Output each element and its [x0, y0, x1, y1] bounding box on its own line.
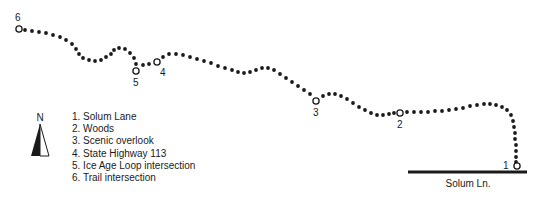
trail-dot [195, 57, 199, 61]
trail-dot [345, 97, 349, 101]
trail-marker-2[interactable] [397, 110, 403, 116]
trail-marker-3[interactable] [313, 98, 319, 104]
trail-dot [308, 92, 312, 96]
trail-dot [296, 84, 300, 88]
legend-item: 1. Solum Lane [72, 111, 195, 123]
trail-dot [44, 31, 48, 35]
trail-dot [387, 112, 391, 116]
trail-dot [512, 125, 516, 129]
trail-dot [369, 111, 373, 115]
trail-marker-6[interactable] [16, 26, 22, 32]
trail-dot [223, 66, 227, 70]
trail-dot [242, 71, 246, 75]
trail-dot [134, 62, 138, 66]
trail-dot [202, 59, 206, 63]
trail-dot [500, 105, 504, 109]
trail-dot [381, 113, 385, 117]
trail-dot [514, 149, 518, 153]
trail-dot [433, 109, 437, 113]
marker-label-3: 3 [313, 108, 319, 118]
trail-dot [70, 42, 74, 46]
marker-label-6: 6 [15, 13, 21, 23]
legend-item: 2. Woods [72, 123, 195, 135]
trail-dot [426, 110, 430, 114]
trail-dot [167, 52, 171, 56]
trail-dot [302, 88, 306, 92]
trail-dot [513, 137, 517, 141]
trail-dot [339, 94, 343, 98]
trail-dot [333, 92, 337, 96]
trail-dot [81, 56, 85, 60]
trail-dot [74, 47, 78, 51]
trail-dot [375, 113, 379, 117]
trail-dot [254, 68, 258, 72]
trail-dot [128, 51, 132, 55]
trail-dot [23, 28, 27, 32]
trail-dot [99, 58, 103, 62]
trail-dot [112, 48, 116, 52]
trail-dot [327, 92, 331, 96]
trail-dot [461, 106, 465, 110]
trail-dot [509, 113, 513, 117]
trail-dot [454, 107, 458, 111]
trail-dot [272, 68, 276, 72]
trail-dot [161, 55, 165, 59]
map-legend: 1. Solum Lane 2. Woods 3. Scenic overloo… [72, 111, 195, 184]
trail-dot [260, 66, 264, 70]
trail-marker-1[interactable] [514, 163, 520, 169]
trail-dot [514, 155, 518, 159]
trail-map-figure: 123456 N 1. Solum Lane 2. Woods 3. Sceni… [0, 0, 537, 203]
trail-dot [123, 47, 127, 51]
marker-label-1: 1 [503, 161, 509, 171]
road-name-label: Solum Ln. [408, 178, 528, 189]
legend-item: 4. State Highway 113 [72, 148, 195, 160]
trail-dot [64, 38, 68, 42]
trail-dot [468, 104, 472, 108]
trail-dot [93, 59, 97, 63]
trail-dot [236, 70, 240, 74]
trail-dot [357, 105, 361, 109]
trail-dot [494, 103, 498, 107]
trail-dot [266, 66, 270, 70]
trail-dot [174, 52, 178, 56]
trail-dot [58, 35, 62, 39]
trail-dot [392, 111, 396, 115]
trail-dot [514, 143, 518, 147]
trail-dot [284, 76, 288, 80]
trail-dot [30, 29, 34, 33]
trail-dot [511, 119, 515, 123]
trail-dot [51, 33, 55, 37]
north-arrow-icon [28, 124, 52, 158]
trail-dot [405, 110, 409, 114]
north-arrow-label: N [28, 112, 52, 123]
trail-dot [505, 108, 509, 112]
trail-dot [351, 101, 355, 105]
trail-dot [87, 58, 91, 62]
trail-dot [278, 72, 282, 76]
trail-dot [321, 94, 325, 98]
trail-dot [117, 46, 121, 50]
trail-dot [475, 103, 479, 107]
trail-dot [447, 108, 451, 112]
trail-dot [209, 61, 213, 65]
trail-dot [188, 55, 192, 59]
north-arrow: N [28, 112, 52, 158]
legend-item: 3. Scenic overlook [72, 135, 195, 147]
marker-label-4: 4 [160, 68, 166, 78]
trail-marker-4[interactable] [154, 59, 160, 65]
trail-dot [141, 63, 145, 67]
marker-label-5: 5 [133, 78, 139, 88]
marker-label-2: 2 [397, 120, 403, 130]
trail-dot [181, 53, 185, 57]
trail-dot [513, 131, 517, 135]
trail-dot [132, 56, 136, 60]
trail-marker-5[interactable] [133, 68, 139, 74]
trail-dot [440, 109, 444, 113]
legend-item: 5. Ice Age Loop intersection [72, 160, 195, 172]
trail-dot [77, 52, 81, 56]
trail-dot [109, 52, 113, 56]
trail-dot [147, 62, 151, 66]
legend-item: 6. Trail intersection [72, 172, 195, 184]
trail-dot [37, 30, 41, 34]
trail-dot [230, 68, 234, 72]
